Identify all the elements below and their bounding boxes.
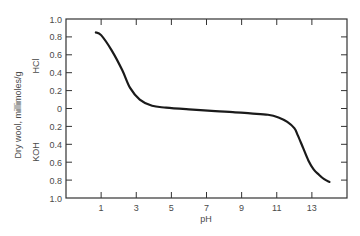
x-tick-label: 3	[134, 203, 139, 213]
y-tick-label: 0.2	[49, 86, 62, 96]
y-tick-label: 1.0	[49, 15, 62, 25]
x-tick-label: 5	[169, 203, 174, 213]
x-tick-label: 11	[272, 203, 281, 213]
y-tick-label: 0.8	[49, 32, 62, 42]
x-tick-label: 7	[204, 203, 209, 213]
y-tick-label: 0.4	[49, 68, 62, 78]
y-tick-label: 0.6	[49, 158, 62, 168]
titration-chart: 1.00.80.60.40.200.20.40.60.81.0 13579111…	[0, 0, 360, 236]
x-tick-label: 9	[239, 203, 244, 213]
x-tick-label: 1	[99, 203, 104, 213]
y-axis-label: Dry wool, millimoles/g	[13, 71, 23, 158]
y-tick-label: 0.2	[49, 122, 62, 132]
data-curve	[96, 32, 330, 181]
y-tick-label: 0.4	[49, 140, 62, 150]
y-axis-tick-labels: 1.00.80.60.40.200.20.40.60.81.0	[49, 15, 62, 204]
y-axis-label-hcl: HCl	[31, 59, 41, 74]
x-axis-tick-labels: 135791113	[99, 203, 317, 213]
y-tick-label: 0.6	[49, 50, 62, 60]
y-axis-label-koh: KOH	[31, 142, 41, 162]
y-tick-label: 1.0	[49, 194, 62, 204]
y-tick-label: 0.8	[49, 176, 62, 186]
x-tick-label: 13	[307, 203, 317, 213]
y-tick-label: 0	[57, 104, 62, 114]
x-axis-label: pH	[200, 214, 212, 224]
